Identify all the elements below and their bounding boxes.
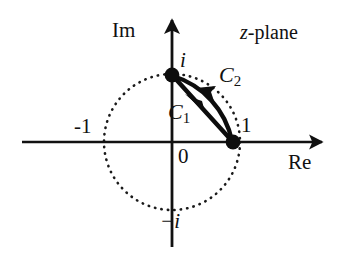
- point-label-minus-i: −i: [160, 211, 180, 232]
- z-plane-title-suffix: -plane: [248, 21, 298, 43]
- imaginary-axis-label: Im: [112, 20, 135, 41]
- point-label-minus-one: -1: [74, 116, 92, 137]
- z-plane-title: z-plane: [240, 22, 298, 42]
- real-axis-label: Re: [288, 152, 311, 173]
- point-marker-i: [165, 68, 180, 83]
- point-label-one: 1: [241, 115, 252, 136]
- contour-label-c2-subscript: 2: [234, 73, 241, 89]
- contour-label-c1: C1: [168, 101, 190, 126]
- z-plane-title-variable: z: [240, 21, 248, 43]
- contour-label-c2: C2: [219, 64, 241, 89]
- origin-label: 0: [178, 146, 189, 167]
- contour-label-c2-base: C: [219, 62, 234, 87]
- contour-label-c1-subscript: 1: [183, 110, 190, 126]
- z-plane-figure: Im Re z-plane i 1 -1 0 −i C1 C2: [0, 0, 346, 259]
- point-label-i: i: [180, 50, 186, 71]
- point-marker-one: [226, 135, 241, 150]
- contour-label-c1-base: C: [168, 99, 183, 124]
- contour-c2-arrowhead: [196, 86, 216, 101]
